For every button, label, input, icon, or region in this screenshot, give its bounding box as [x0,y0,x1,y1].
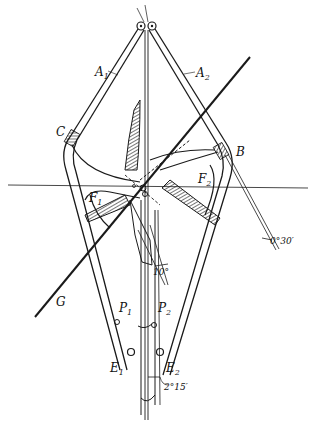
pivot-e2 [157,349,164,356]
label-p2: P2 [157,301,171,317]
label-b: B [235,145,245,159]
linkage-diagram: A1 A2 C B F1 F2 G P1 P2 E1 E2 0°30′ 10° … [0,0,311,425]
label-f1: F1 [88,191,102,207]
label-e1: E1 [109,361,124,377]
label-c: C [56,125,65,139]
pin-p2 [152,323,157,328]
angle-label-bottom: 2°15′ [163,382,188,392]
top-pivots [137,5,156,30]
label-e2: E2 [165,361,180,377]
angle-label-right: 0°30′ [270,236,294,246]
label-f2: F2 [197,172,211,188]
label-a1: A1 [94,65,109,81]
label-a2: A2 [195,66,210,82]
label-g: G [56,295,66,309]
pivot-e1 [128,349,135,356]
horizontal-reference-line [8,185,308,188]
label-p1: P1 [118,301,132,317]
angle-label-center: 10° [153,267,169,277]
